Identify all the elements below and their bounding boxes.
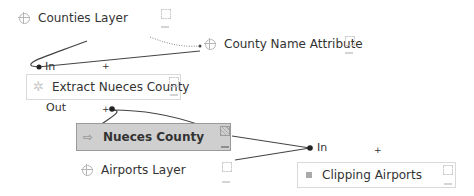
port-out-label: Out [46,101,66,114]
minimize-icon[interactable] [161,26,169,28]
wire-nueces-to-clip [232,136,310,148]
minimize-icon[interactable] [444,183,452,185]
wire-attribute-to-extract [38,51,200,67]
connector-dot [199,45,202,48]
node-label: County Name Attribute [224,37,363,51]
node-county-name-attribute[interactable]: County Name Attribute [204,37,363,51]
node-label: Clipping Airports [322,168,422,182]
node-nueces-county[interactable]: ⇨ Nueces County [76,123,231,151]
minimize-icon[interactable] [345,52,353,54]
arrow-icon: ⇨ [83,131,95,143]
expand-icon[interactable] [161,9,171,19]
expand-icon[interactable] [169,77,179,87]
minimize-icon[interactable] [221,146,229,148]
port-in-label: In [317,141,327,154]
connector-dot [307,145,313,151]
gear-icon: ✲ [33,81,44,93]
minimize-icon[interactable] [170,94,178,96]
node-label: Nueces County [103,130,204,144]
node-airports-layer[interactable]: Airports Layer [81,163,186,177]
clip-icon [306,172,312,178]
layer-icon [81,164,93,176]
wire-airports-to-clip [235,148,310,160]
connector-dot [109,106,115,112]
node-clipping-airports[interactable]: Clipping Airports [297,162,456,188]
add-port-icon[interactable]: + [102,61,110,71]
expand-icon[interactable] [222,162,232,172]
node-label: Counties Layer [38,11,128,25]
wire-dotted-attribute [150,37,198,46]
minimize-icon[interactable] [222,181,230,183]
layer-icon [204,38,216,50]
expand-icon[interactable] [443,165,453,175]
expand-icon[interactable] [345,36,355,46]
node-extract-nueces-county[interactable]: ✲ Extract Nueces County [26,74,181,100]
add-port-icon[interactable]: + [374,145,382,155]
connector-dot [37,65,42,70]
layer-icon [18,12,30,24]
expand-icon[interactable] [220,126,230,136]
node-label: Airports Layer [101,163,186,177]
port-in-label: In [45,60,55,73]
node-counties-layer[interactable]: Counties Layer [18,11,128,25]
add-port-icon[interactable]: + [102,104,110,114]
